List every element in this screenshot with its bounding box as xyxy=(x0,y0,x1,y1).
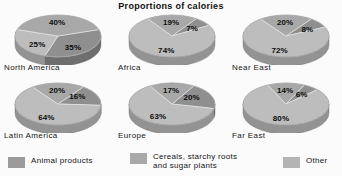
legend-item-animal-products: Animal products xyxy=(8,156,93,168)
chart-page: Proportions of calories 35%25%40% North … xyxy=(0,0,342,176)
legend: Animal products Cereals, starchy roots a… xyxy=(0,152,342,176)
slice-percentage-label: 20% xyxy=(184,93,200,102)
legend-swatch-icon xyxy=(283,157,300,168)
slice-percentage-label: 72% xyxy=(271,46,287,55)
pie-chart-latin-america: 16%64%20% Latin America xyxy=(0,81,114,149)
slice-percentage-label: 35% xyxy=(65,43,81,52)
slice-percentage-label: 19% xyxy=(163,18,179,27)
pie-chart-near-east: 8%72%20% Near East xyxy=(228,13,342,81)
pie-chart-far-east: 6%80%14% Far East xyxy=(228,81,342,149)
pie-graphic: 35%25%40% xyxy=(8,13,108,65)
region-label: Far East xyxy=(232,131,265,140)
legend-label: Cereals, starchy roots and sugar plants xyxy=(153,152,237,170)
slice-percentage-label: 14% xyxy=(277,86,293,95)
slice-percentage-label: 74% xyxy=(158,46,174,55)
pie-graphic: 8%72%20% xyxy=(236,13,336,65)
pie-chart-africa: 7%74%19% Africa xyxy=(114,13,228,81)
slice-percentage-label: 20% xyxy=(49,86,65,95)
slice-percentage-label: 40% xyxy=(49,18,65,27)
pie-graphic: 7%74%19% xyxy=(122,13,222,65)
slice-percentage-label: 16% xyxy=(69,92,85,101)
slice-percentage-label: 63% xyxy=(150,112,166,121)
legend-item-cereals: Cereals, starchy roots and sugar plants xyxy=(130,152,237,170)
pie-chart-row-1: 35%25%40% North America 7%74%19% Africa … xyxy=(0,13,342,81)
pie-graphic: 16%64%20% xyxy=(8,81,108,133)
pie-chart-europe: 20%63%17% Europe xyxy=(114,81,228,149)
pie-chart-north-america: 35%25%40% North America xyxy=(0,13,114,81)
legend-swatch-icon xyxy=(8,157,25,168)
region-label: Near East xyxy=(232,63,271,72)
legend-swatch-icon xyxy=(130,153,147,164)
page-title: Proportions of calories xyxy=(0,1,342,11)
slice-percentage-label: 20% xyxy=(277,18,293,27)
legend-item-other: Other xyxy=(283,156,328,168)
region-label: Latin America xyxy=(4,131,58,140)
slice-percentage-label: 17% xyxy=(163,86,179,95)
slice-percentage-label: 6% xyxy=(296,90,308,99)
pie-chart-row-2: 16%64%20% Latin America 20%63%17% Europe… xyxy=(0,81,342,149)
legend-label: Animal products xyxy=(31,156,93,165)
pie-graphic: 20%63%17% xyxy=(122,81,222,133)
region-label: Europe xyxy=(118,131,146,140)
region-label: Africa xyxy=(118,63,141,72)
slice-percentage-label: 8% xyxy=(302,25,314,34)
pie-chart-grid: 35%25%40% North America 7%74%19% Africa … xyxy=(0,13,342,149)
slice-percentage-label: 80% xyxy=(273,114,289,123)
slice-percentage-label: 7% xyxy=(186,24,198,33)
pie-graphic: 6%80%14% xyxy=(236,81,336,133)
region-label: North America xyxy=(4,63,60,72)
slice-percentage-label: 25% xyxy=(29,40,45,49)
slice-percentage-label: 64% xyxy=(38,113,54,122)
legend-label: Other xyxy=(306,156,328,165)
